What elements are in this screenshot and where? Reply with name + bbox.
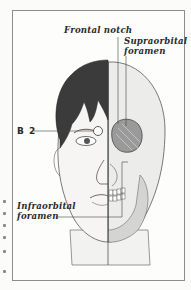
label-frontal-notch: Frontal notch	[64, 26, 132, 36]
label-b2: B 2	[17, 126, 36, 136]
label-supraorbital-line2: foramen	[124, 47, 166, 57]
b2-point-marker	[94, 127, 103, 136]
teeth	[109, 188, 125, 201]
iris	[84, 138, 90, 144]
label-infraorbital-line2: foramen	[17, 212, 59, 222]
